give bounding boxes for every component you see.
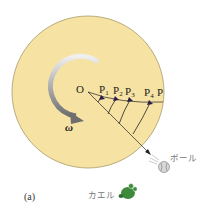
omega-label: ω — [65, 121, 73, 133]
frog-icon — [119, 184, 138, 200]
ball-label: ボール — [170, 153, 197, 163]
ball-motion-lines — [149, 155, 159, 164]
center-label-o: O — [76, 83, 84, 95]
rotating-disk-diagram: ω O P1 P2 P3 P4 P ボール カエル — [0, 0, 216, 213]
frog-label: カエル — [88, 190, 115, 200]
figure-caption-label: (a) — [24, 191, 35, 203]
ball-icon — [159, 162, 170, 173]
point-label-p: P — [157, 86, 163, 98]
